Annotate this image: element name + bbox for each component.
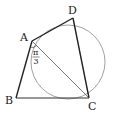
label-A: A	[19, 31, 29, 44]
diagonal-AC	[32, 41, 89, 98]
segment-AB	[16, 41, 32, 98]
angle-denominator: 3	[34, 57, 39, 66]
label-D: D	[68, 4, 77, 17]
label-C: C	[88, 100, 96, 113]
angle-numerator: π	[33, 48, 38, 57]
geometry-diagram: A B C D π 3	[0, 0, 120, 120]
segment-AD	[32, 18, 73, 41]
label-B: B	[5, 94, 13, 107]
